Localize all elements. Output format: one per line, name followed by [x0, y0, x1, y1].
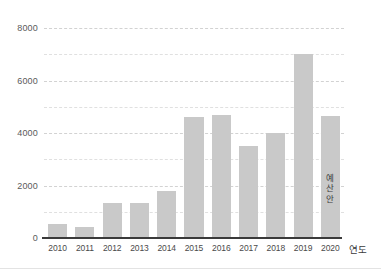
- x-tick-label-2014: 2014: [157, 243, 176, 253]
- bar-2018: [266, 133, 285, 238]
- x-tick-label-2011: 2011: [76, 243, 94, 253]
- bar-2015: [184, 117, 203, 238]
- bar-2012: [103, 203, 122, 238]
- bar-annotation-2020: 예산안: [325, 173, 336, 205]
- bar-2013: [130, 203, 149, 238]
- x-tick-label-2018: 2018: [267, 243, 286, 253]
- x-tick-label-2013: 2013: [130, 243, 149, 253]
- bar-slot: [266, 28, 285, 238]
- bar-2019: [294, 54, 313, 238]
- bar-slot: [130, 28, 149, 238]
- bar-slot: [184, 28, 203, 238]
- bar-2010: [48, 224, 67, 238]
- x-axis: 2010201120122013201420152016201720182019…: [44, 243, 344, 261]
- x-tick-label-2016: 2016: [212, 243, 231, 253]
- bar-2014: [157, 191, 176, 238]
- plot-area: 예산안: [44, 28, 344, 238]
- bottom-divider: [0, 268, 381, 269]
- y-tick-label: 8000: [17, 23, 38, 33]
- bar-slot: [103, 28, 122, 238]
- x-tick-label-2010: 2010: [48, 243, 67, 253]
- x-tick-label-2019: 2019: [294, 243, 313, 253]
- bar-slot: [294, 28, 313, 238]
- bar-slot: [239, 28, 258, 238]
- bar-slot: [48, 28, 67, 238]
- bar-slot: [75, 28, 94, 238]
- bar-2020: 예산안: [321, 116, 340, 238]
- y-tick-label: 0: [33, 233, 38, 243]
- bar-2016: [212, 115, 231, 238]
- y-axis: 02000400060008000: [0, 28, 38, 238]
- bar-slot: 예산안: [321, 28, 340, 238]
- y-tick-label: 6000: [17, 76, 38, 86]
- x-tick-label-2017: 2017: [239, 243, 258, 253]
- bar-slot: [212, 28, 231, 238]
- x-tick-label-2020: 2020: [321, 243, 340, 253]
- y-tick-label: 2000: [17, 181, 38, 191]
- x-tick-label-2015: 2015: [185, 243, 204, 253]
- x-axis-baseline: [42, 237, 342, 239]
- bar-chart-figure: 02000400060008000 예산안 201020112012201320…: [0, 0, 381, 276]
- x-tick-label-2012: 2012: [103, 243, 122, 253]
- bar-2017: [239, 146, 258, 238]
- bar-slot: [157, 28, 176, 238]
- y-tick-label: 4000: [17, 128, 38, 138]
- x-axis-title: 연도: [349, 242, 367, 256]
